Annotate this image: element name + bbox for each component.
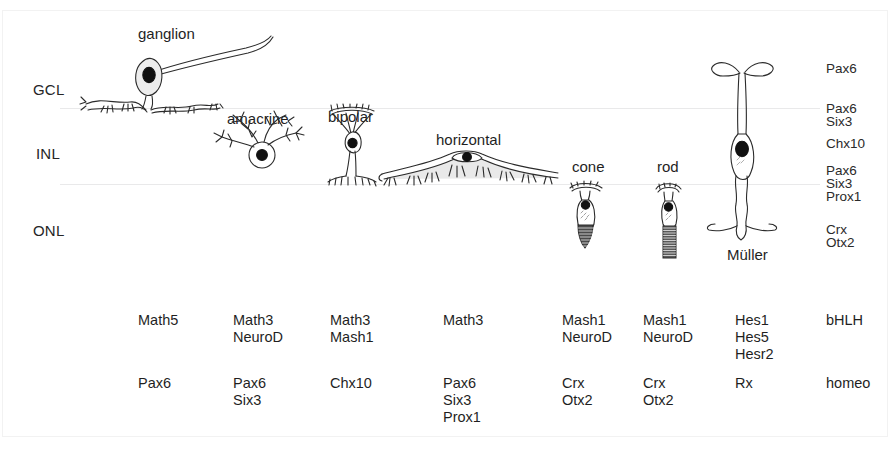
gene-item: Pax6 xyxy=(443,375,481,392)
gene-annotation-gcl-inl-border: Pax6 Six3 xyxy=(826,102,857,128)
horizontal-cell-drawing xyxy=(378,148,563,188)
rod-cell-drawing xyxy=(648,180,692,260)
gene-item: Hesr2 xyxy=(735,346,774,363)
amacrine-cell-drawing xyxy=(200,103,320,175)
layer-label-onl: ONL xyxy=(33,222,64,239)
table-homeo-cone: Crx Otx2 xyxy=(562,375,593,409)
retina-cell-type-figure: GCL INL ONL ganglion amacrine bipolar ho… xyxy=(0,0,892,449)
gene-item: Rx xyxy=(735,375,753,392)
gene-item: Chx10 xyxy=(330,375,372,392)
table-homeo-rod: Crx Otx2 xyxy=(643,375,674,409)
gene-item: Mash1 xyxy=(643,312,693,329)
gene-gcl-0: Pax6 xyxy=(826,62,857,75)
row-category-bhlh: bHLH xyxy=(826,312,863,329)
bipolar-cell-drawing xyxy=(322,104,384,186)
layer-label-gcl: GCL xyxy=(33,81,64,98)
gene-item: Prox1 xyxy=(443,409,481,426)
gene-item: Crx xyxy=(643,375,674,392)
ganglion-cell-drawing xyxy=(78,34,298,114)
table-bhlh-ganglion: Math5 xyxy=(138,312,178,329)
gene-item: Six3 xyxy=(443,392,481,409)
gene-annotation-inl-onl-border: Pax6 Six3 Prox1 xyxy=(826,164,861,203)
cone-cell-drawing xyxy=(562,180,612,252)
row-category-homeo: homeo xyxy=(826,375,870,392)
table-bhlh-rod: Mash1 NeuroD xyxy=(643,312,693,346)
gene-item: Pax6 xyxy=(138,375,171,392)
muller-cell-drawing xyxy=(705,58,783,244)
gene-item: Mash1 xyxy=(330,329,374,346)
layer-label-inl: INL xyxy=(36,145,60,162)
table-bhlh-horizontal: Math3 xyxy=(443,312,483,329)
gene-item: Pax6 xyxy=(233,375,266,392)
gene-onl-1: Otx2 xyxy=(826,236,855,249)
table-homeo-muller: Rx xyxy=(735,375,753,392)
gene-item: NeuroD xyxy=(562,329,612,346)
gene-annotation-gcl: Pax6 xyxy=(826,62,857,75)
gene-gclinl-1: Six3 xyxy=(826,115,857,128)
table-bhlh-bipolar: Math3 Mash1 xyxy=(330,312,374,346)
gene-item: Math3 xyxy=(443,312,483,329)
gene-item: Math5 xyxy=(138,312,178,329)
table-homeo-amacrine: Pax6 Six3 xyxy=(233,375,266,409)
table-bhlh-amacrine: Math3 NeuroD xyxy=(233,312,283,346)
table-homeo-bipolar: Chx10 xyxy=(330,375,372,392)
gene-item: NeuroD xyxy=(643,329,693,346)
gene-item: Six3 xyxy=(233,392,266,409)
table-homeo-horizontal: Pax6 Six3 Prox1 xyxy=(443,375,481,426)
gene-item: Math3 xyxy=(330,312,374,329)
cell-label-horizontal: horizontal xyxy=(436,131,501,148)
gene-inl-0: Chx10 xyxy=(826,137,865,150)
gene-annotation-inl: Chx10 xyxy=(826,137,865,150)
gene-inlonl-2: Prox1 xyxy=(826,190,861,203)
gene-item: Crx xyxy=(562,375,593,392)
table-bhlh-cone: Mash1 NeuroD xyxy=(562,312,612,346)
table-homeo-ganglion: Pax6 xyxy=(138,375,171,392)
gene-item: Mash1 xyxy=(562,312,612,329)
gene-item: Math3 xyxy=(233,312,283,329)
gene-item: Hes1 xyxy=(735,312,774,329)
gene-item: NeuroD xyxy=(233,329,283,346)
cell-label-muller: Müller xyxy=(727,246,768,263)
cell-label-cone: cone xyxy=(572,158,605,175)
gene-item: Otx2 xyxy=(643,392,674,409)
cell-label-rod: rod xyxy=(657,158,679,175)
gene-item: Hes5 xyxy=(735,329,774,346)
gene-annotation-onl: Crx Otx2 xyxy=(826,223,855,249)
gene-item: Otx2 xyxy=(562,392,593,409)
table-bhlh-muller: Hes1 Hes5 Hesr2 xyxy=(735,312,774,363)
